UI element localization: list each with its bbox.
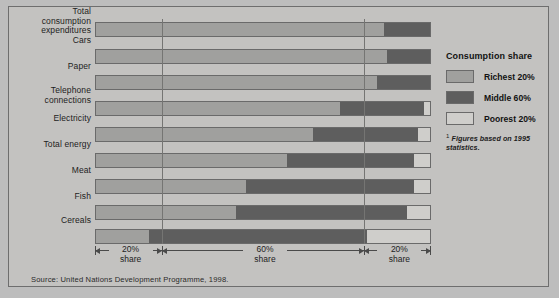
category-label: Meat bbox=[9, 166, 91, 176]
scale-label-percent: 60% bbox=[256, 244, 273, 254]
category-label: Electricity bbox=[9, 114, 91, 124]
scale-label-unit: share bbox=[245, 254, 285, 264]
scale-label: 20%share bbox=[377, 244, 421, 264]
category-label: Cars bbox=[9, 36, 91, 46]
bar-segment-richest-20 bbox=[95, 205, 236, 220]
bar-segment-middle-60 bbox=[246, 179, 414, 194]
scale-label-unit: share bbox=[379, 254, 419, 264]
footnote: 1 Figures based on 1995 statistics. bbox=[446, 133, 559, 152]
scale-label-unit: share bbox=[111, 254, 151, 264]
legend-item-label: Middle 60% bbox=[484, 93, 531, 103]
category-label: Telephoneconnections bbox=[9, 86, 91, 105]
bar-row bbox=[95, 153, 431, 168]
scale-label-percent: 20% bbox=[391, 244, 408, 254]
bar-segment-richest-20 bbox=[95, 127, 313, 142]
bar-segment-richest-20 bbox=[95, 153, 287, 168]
bar-segment-richest-20 bbox=[95, 75, 377, 90]
chart-page: TotalconsumptionexpendituresCarsPaperTel… bbox=[0, 0, 559, 298]
bar-row bbox=[95, 229, 431, 244]
scale-tick-0 bbox=[95, 246, 96, 255]
bar-segment-richest-20 bbox=[95, 22, 384, 37]
bar-segment-middle-60 bbox=[384, 22, 431, 37]
bar-segment-richest-20 bbox=[95, 49, 387, 64]
bar-segment-richest-20 bbox=[95, 179, 246, 194]
chart-frame: TotalconsumptionexpendituresCarsPaperTel… bbox=[8, 6, 549, 287]
legend: Consumption share Richest 20% Middle 60%… bbox=[446, 51, 559, 152]
middle-swatch bbox=[446, 91, 474, 104]
poorest-swatch bbox=[446, 112, 474, 125]
legend-item-label: Poorest 20% bbox=[484, 114, 536, 124]
bar-row bbox=[95, 22, 431, 37]
category-label: Totalconsumptionexpenditures bbox=[9, 7, 91, 36]
category-label: Fish bbox=[9, 192, 91, 202]
bar-segment-middle-60 bbox=[287, 153, 415, 168]
bar-segment-poorest-20 bbox=[418, 127, 431, 142]
bar-segment-middle-60 bbox=[149, 229, 367, 244]
scale-label-percent: 20% bbox=[122, 244, 139, 254]
category-axis-labels: TotalconsumptionexpendituresCarsPaperTel… bbox=[9, 7, 91, 247]
legend-title: Consumption share bbox=[446, 51, 559, 61]
bar-row bbox=[95, 179, 431, 194]
category-label-line: Cars bbox=[9, 36, 91, 46]
bar-row bbox=[95, 205, 431, 220]
bar-row bbox=[95, 101, 431, 116]
share-scale-axis: 20%share60%share20%share bbox=[95, 246, 431, 272]
category-label-line: connections bbox=[9, 96, 91, 106]
bar-segment-poorest-20 bbox=[367, 229, 431, 244]
legend-item-middle: Middle 60% bbox=[446, 91, 559, 104]
scale-label: 20%share bbox=[109, 244, 153, 264]
category-label-line: Electricity bbox=[9, 114, 91, 124]
category-label-line: Total energy bbox=[9, 140, 91, 150]
scale-tick-20 bbox=[162, 246, 163, 255]
category-label: Total energy bbox=[9, 140, 91, 150]
legend-item-label: Richest 20% bbox=[484, 72, 535, 82]
richest-swatch bbox=[446, 70, 474, 83]
category-label: Cereals bbox=[9, 216, 91, 226]
bar-row bbox=[95, 127, 431, 142]
legend-item-richest: Richest 20% bbox=[446, 70, 559, 83]
scale-label: 60%share bbox=[243, 244, 287, 264]
bar-segment-poorest-20 bbox=[414, 153, 431, 168]
axis-divider-20 bbox=[162, 19, 163, 244]
bar-segment-middle-60 bbox=[236, 205, 407, 220]
bar-segment-poorest-20 bbox=[414, 179, 431, 194]
category-label: Paper bbox=[9, 62, 91, 72]
axis-divider-80 bbox=[364, 19, 365, 244]
category-label-line: Meat bbox=[9, 166, 91, 176]
bar-segment-poorest-20 bbox=[424, 101, 431, 116]
scale-tick-100 bbox=[430, 246, 431, 255]
footnote-text: Figures based on 1995 statistics. bbox=[446, 134, 530, 152]
bar-segment-middle-60 bbox=[387, 49, 431, 64]
scale-tick-80 bbox=[364, 246, 365, 255]
category-label-line: Cereals bbox=[9, 216, 91, 226]
bar-segment-middle-60 bbox=[377, 75, 431, 90]
bar-segment-richest-20 bbox=[95, 229, 149, 244]
plot-area bbox=[95, 19, 431, 240]
footnote-marker: 1 bbox=[446, 133, 449, 139]
bar-row bbox=[95, 49, 431, 64]
bar-row bbox=[95, 75, 431, 90]
bar-segment-middle-60 bbox=[313, 127, 417, 142]
category-label-line: Fish bbox=[9, 192, 91, 202]
legend-item-poorest: Poorest 20% bbox=[446, 112, 559, 125]
bar-segment-poorest-20 bbox=[407, 205, 431, 220]
source-note: Source: United Nations Development Progr… bbox=[31, 275, 229, 284]
bar-segment-middle-60 bbox=[340, 101, 424, 116]
bar-segment-richest-20 bbox=[95, 101, 340, 116]
category-label-line: Paper bbox=[9, 62, 91, 72]
